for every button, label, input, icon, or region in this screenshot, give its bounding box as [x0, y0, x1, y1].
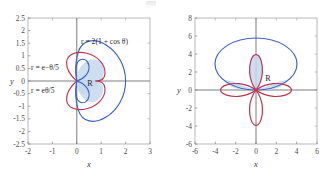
left-xtick-3: 1 — [99, 147, 103, 156]
right-xtick-6: 6 — [315, 147, 319, 156]
left-xtick-0: -2 — [25, 147, 31, 156]
right-region-label: R — [265, 74, 271, 83]
left-ytick-6: -0.5 — [13, 89, 25, 98]
left-ytick-10: -2.5 — [13, 140, 25, 149]
left-panel: 2.5 2 1.5 1 0.5 0 -0.5 -1 -1.5 -2 -2.5 -… — [0, 0, 165, 172]
right-ytick-2: 4 — [188, 50, 192, 59]
left-xtick-4: 2 — [124, 147, 128, 156]
left-ytick-1: 2 — [21, 26, 25, 35]
right-ytick-6: -4 — [186, 122, 192, 131]
spiral-lower-label: r = eθ/5 — [31, 86, 55, 95]
left-ytick-4: 0.5 — [16, 64, 26, 73]
left-xaxis-label: x — [86, 159, 91, 169]
left-region-label: R — [87, 79, 93, 88]
page-artifact-mark — [146, 1, 156, 8]
right-xtick-3: 0 — [254, 147, 258, 156]
left-xtick-1: -1 — [49, 147, 55, 156]
right-ytick-3: 2 — [188, 68, 192, 77]
right-panel-plot: 8 6 4 2 0 -2 -4 -6 -6 -4 -2 0 2 4 6 x y … — [165, 0, 331, 172]
left-ytick-7: -1 — [19, 102, 25, 111]
left-ytick-3: 1 — [21, 51, 25, 60]
left-panel-plot: 2.5 2 1.5 1 0.5 0 -0.5 -1 -1.5 -2 -2.5 -… — [0, 0, 165, 172]
left-ytick-9: -2 — [19, 127, 25, 136]
right-ytick-5: -2 — [186, 104, 192, 113]
spiral-upper-label: r = e−θ/5 — [31, 63, 59, 72]
right-ytick-1: 6 — [188, 32, 192, 41]
left-ytick-8: -1.5 — [13, 114, 25, 123]
right-yaxis-label: y — [176, 85, 181, 95]
right-xtick-4: 2 — [274, 147, 278, 156]
left-xtick-5: 3 — [148, 147, 152, 156]
left-ytick-5: 0 — [21, 77, 25, 86]
right-ytick-0: 8 — [188, 14, 192, 23]
right-xtick-1: -4 — [212, 147, 218, 156]
left-yaxis-label: y — [9, 76, 14, 86]
right-xtick-5: 4 — [295, 147, 299, 156]
left-ytick-0: 2.5 — [16, 14, 26, 23]
right-xtick-0: -6 — [192, 147, 198, 156]
right-xaxis-label: x — [253, 159, 258, 169]
left-ytick-2: 1.5 — [16, 39, 26, 48]
figure-container: 2.5 2 1.5 1 0.5 0 -0.5 -1 -1.5 -2 -2.5 -… — [0, 0, 331, 172]
left-xtick-2: 0 — [75, 147, 79, 156]
right-xtick-2: -2 — [233, 147, 239, 156]
cardioid-label: r = 2(1 + cos θ) — [81, 37, 128, 46]
right-ytick-4: 0 — [188, 86, 192, 95]
right-panel: 8 6 4 2 0 -2 -4 -6 -6 -4 -2 0 2 4 6 x y … — [165, 0, 331, 172]
